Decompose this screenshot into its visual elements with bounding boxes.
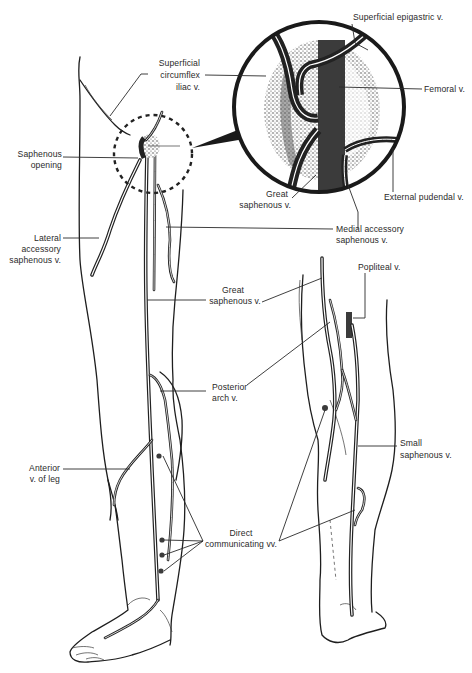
label-popliteal: Popliteal v. xyxy=(358,262,401,272)
label-great-saphenous-2: saphenous v. xyxy=(209,296,261,306)
label-posterior-arch-1: Posterior xyxy=(212,382,247,392)
perforator-dot xyxy=(156,453,161,458)
label-posterior-arch-2: arch v. xyxy=(212,393,238,403)
label-direct-communicating-1: Direct xyxy=(229,528,253,538)
label-anterior-v-leg-2: v. of leg xyxy=(30,474,60,484)
label-direct-communicating-2: communicating vv. xyxy=(205,539,277,549)
label-sci-3: iliac v. xyxy=(176,82,200,92)
perforator-dot xyxy=(158,568,163,573)
perforator-dot xyxy=(159,537,164,542)
perforator-dot xyxy=(159,552,164,557)
label-sci-1: Superficial xyxy=(159,58,200,68)
label-medial-accessory-1: Medial accessory xyxy=(336,224,405,234)
label-great-saphenous-inset-2: saphenous v. xyxy=(239,200,291,210)
anterior-veins xyxy=(92,150,174,638)
saphenous-opening-small xyxy=(114,112,192,193)
label-medial-accessory-2: saphenous v. xyxy=(336,235,388,245)
label-femoral: Femoral v. xyxy=(424,84,465,94)
label-small-saphenous-2: saphenous v. xyxy=(400,450,452,460)
label-external-pudendal: External pudendal v. xyxy=(384,192,464,202)
label-anterior-v-leg-1: Anterior xyxy=(29,463,60,473)
label-saphenous-opening-1: Saphenous xyxy=(18,149,62,159)
anterior-leg xyxy=(70,57,185,662)
label-sci-2: circumflex xyxy=(160,70,200,80)
label-lateral-accessory-2: accessory xyxy=(21,244,61,254)
label-lateral-accessory-3: saphenous v. xyxy=(9,255,61,265)
posterior-leg xyxy=(299,275,395,642)
label-great-saphenous-inset-1: Great xyxy=(266,189,289,199)
label-small-saphenous-1: Small xyxy=(400,438,422,448)
label-saphenous-opening-2: opening xyxy=(31,160,62,170)
anatomy-diagram: Superficial epigastric v. Femoral v. Ext… xyxy=(0,0,472,673)
label-lateral-accessory-1: Lateral xyxy=(34,233,61,243)
label-great-saphenous-1: Great xyxy=(222,285,245,295)
label-superficial-epigastric: Superficial epigastric v. xyxy=(353,12,443,22)
posterior-veins xyxy=(322,258,364,615)
inset-magnified-view xyxy=(234,20,410,200)
